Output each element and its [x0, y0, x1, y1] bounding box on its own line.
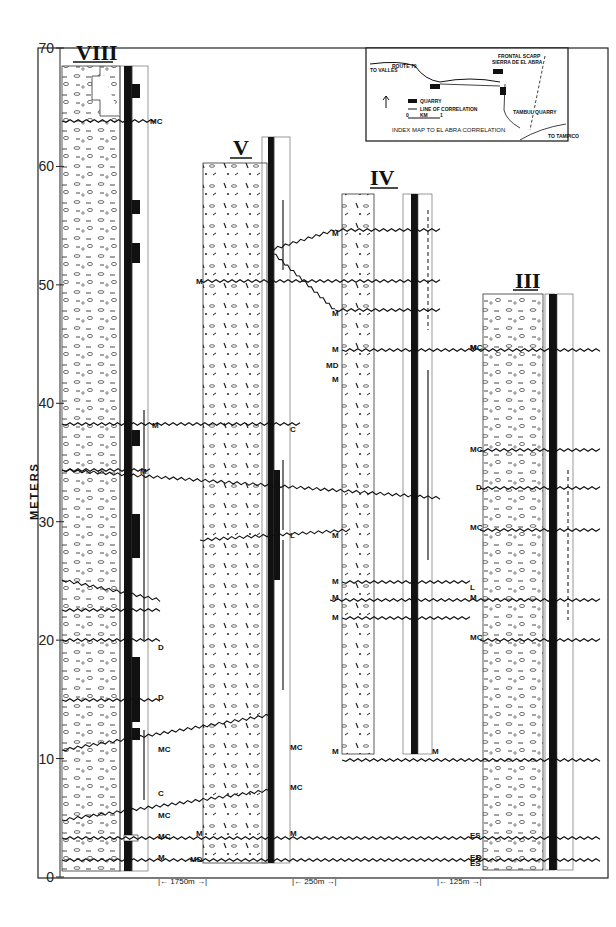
correlation-line — [270, 230, 335, 250]
column-III: III — [483, 268, 573, 870]
horizon-label: C — [158, 789, 164, 798]
horizon-label: MD — [326, 361, 339, 370]
horizon-label: ES — [470, 831, 481, 840]
horizon-label: ES — [470, 859, 481, 868]
horizon-label: MC — [158, 811, 171, 820]
column-V: V — [203, 135, 290, 863]
y-tick-label: 10 — [38, 751, 54, 767]
horizon-label: M — [432, 747, 439, 756]
horizon-label: M — [196, 829, 203, 838]
stratigraphic-correlation-figure: 010203040506070 METERS VIII V — [0, 0, 616, 927]
horizon-label: MC — [470, 523, 483, 532]
y-tick-label: 30 — [38, 514, 54, 530]
y-tick-label: 0 — [46, 869, 54, 885]
y-tick-label: 20 — [38, 632, 54, 648]
horizon-label: C — [290, 425, 296, 434]
map-to-tampico: TO TAMPICO — [548, 133, 579, 139]
map-sierra: SIERRA DE EL ABRA — [492, 59, 543, 65]
correlation-line — [342, 759, 600, 762]
y-tick-label: 40 — [38, 395, 54, 411]
horizon-label: M — [332, 345, 339, 354]
horizon-label: M — [158, 853, 165, 862]
column-label-v: V — [233, 135, 249, 160]
horizon-label: MC — [470, 633, 483, 642]
svg-text:KM: KM — [420, 112, 428, 118]
horizon-label: M — [140, 467, 147, 476]
horizon-label: M — [332, 229, 339, 238]
y-tick-label: 50 — [38, 277, 54, 293]
spacing-1750: |← 1750m →| — [158, 877, 207, 886]
horizon-label: MC — [290, 743, 303, 752]
horizon-label: MC — [150, 117, 163, 126]
horizon-label: M — [470, 343, 477, 352]
horizon-label: M — [332, 531, 339, 540]
index-map: TO VALLES ROUTE 70 FRONTAL SCARP SIERRA … — [366, 48, 579, 141]
horizon-label: M — [332, 613, 339, 622]
column-IV: IV — [342, 165, 432, 754]
map-tambul: TAMBUL QUARRY — [513, 109, 557, 115]
horizon-label: M — [152, 421, 159, 430]
svg-text:0: 0 — [406, 112, 409, 118]
horizon-label: D — [158, 693, 164, 702]
horizon-label: L — [470, 583, 475, 592]
horizon-label: M — [290, 829, 297, 838]
y-tick-label: 60 — [38, 158, 54, 174]
spacing-250: |← 250m →| — [292, 877, 337, 886]
horizon-label: M — [470, 593, 477, 602]
horizon-label: M — [332, 577, 339, 586]
y-tick-label: 70 — [38, 40, 54, 56]
svg-text:1: 1 — [440, 112, 443, 118]
horizon-label: M — [332, 593, 339, 602]
horizon-label: MC — [158, 745, 171, 754]
horizon-label: L — [290, 531, 295, 540]
column-VIII: VIII — [62, 40, 148, 871]
map-route: ROUTE 70 — [392, 63, 417, 69]
horizon-label: MC — [158, 832, 171, 841]
column-label-iv: IV — [370, 165, 395, 190]
map-quarry-legend: QUARRY — [420, 98, 442, 104]
map-line-legend: LINE OF CORRELATION — [420, 106, 478, 112]
y-axis: 010203040506070 METERS — [28, 40, 64, 885]
map-title: INDEX MAP TO EL ABRA CORRELATION — [392, 127, 505, 133]
y-axis-label: METERS — [28, 462, 40, 520]
horizon-label: MD — [190, 855, 203, 864]
horizon-label: D — [158, 643, 164, 652]
horizon-label: D — [476, 483, 482, 492]
horizon-label: MC — [470, 445, 483, 454]
spacing-125: |← 125m →| — [437, 877, 482, 886]
horizon-label: M — [332, 309, 339, 318]
horizon-label: M — [196, 277, 203, 286]
horizon-label: M — [332, 375, 339, 384]
horizon-label: MC — [290, 783, 303, 792]
horizon-label: M — [332, 747, 339, 756]
